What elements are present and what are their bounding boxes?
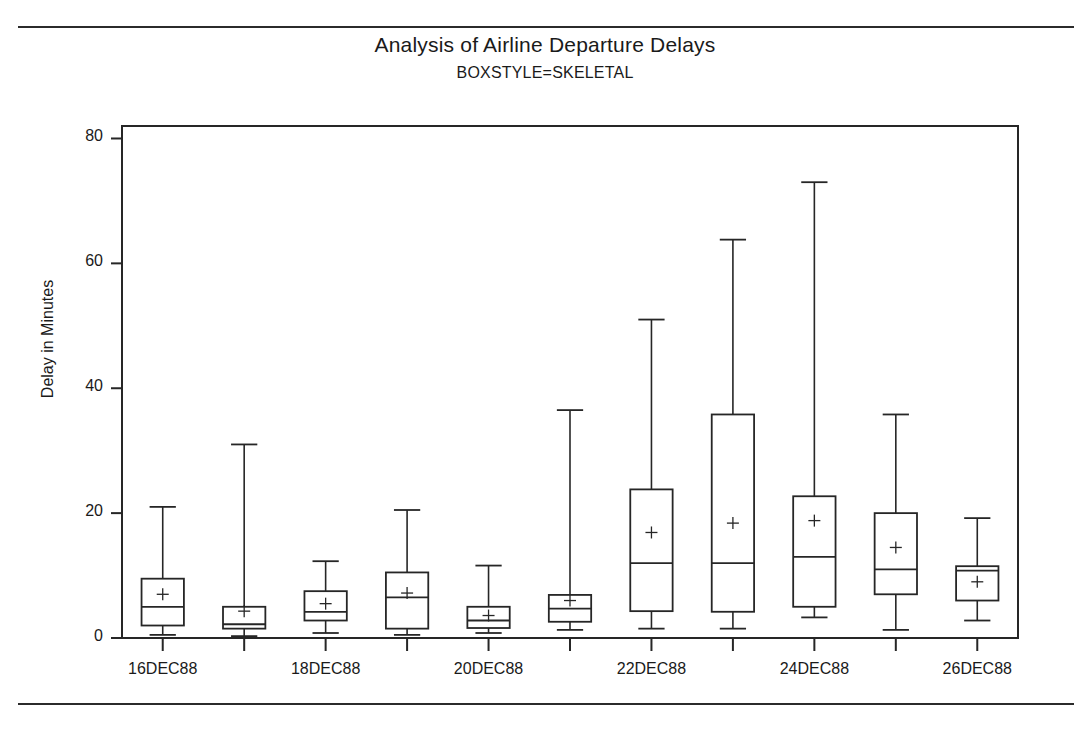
box-plot-item (793, 182, 835, 617)
y-axis-tick-label: 60 (59, 252, 103, 270)
box-plot-item (142, 507, 184, 635)
y-axis-tick-label: 80 (59, 127, 103, 145)
x-axis-tick-label: 26DEC88 (922, 660, 1032, 678)
box-plot-item (549, 410, 591, 630)
y-axis-tick-label: 0 (59, 627, 103, 645)
boxplot-plot-area (0, 0, 1090, 730)
y-axis-tick-label: 40 (59, 377, 103, 395)
box-rect (793, 496, 835, 607)
box-rect (142, 579, 184, 626)
box-plot-item (467, 566, 509, 633)
x-axis-tick-label: 20DEC88 (434, 660, 544, 678)
box-plot-item (956, 518, 998, 620)
box-plot-item (386, 510, 428, 635)
figure-canvas: Analysis of Airline Departure Delays BOX… (0, 0, 1090, 730)
x-axis-tick-label: 16DEC88 (108, 660, 218, 678)
box-plot-item (223, 444, 265, 636)
box-plot-item (630, 320, 672, 629)
box-rect (630, 489, 672, 611)
x-axis-tick-label: 24DEC88 (759, 660, 869, 678)
box-plot-item (712, 240, 754, 629)
box-rect (712, 414, 754, 611)
x-axis-tick-label: 22DEC88 (596, 660, 706, 678)
box-rect (386, 572, 428, 628)
box-plot-item (304, 561, 346, 633)
x-axis-tick-label: 18DEC88 (271, 660, 381, 678)
box-plot-item (875, 414, 917, 629)
y-axis-tick-label: 20 (59, 502, 103, 520)
box-rect (875, 513, 917, 594)
